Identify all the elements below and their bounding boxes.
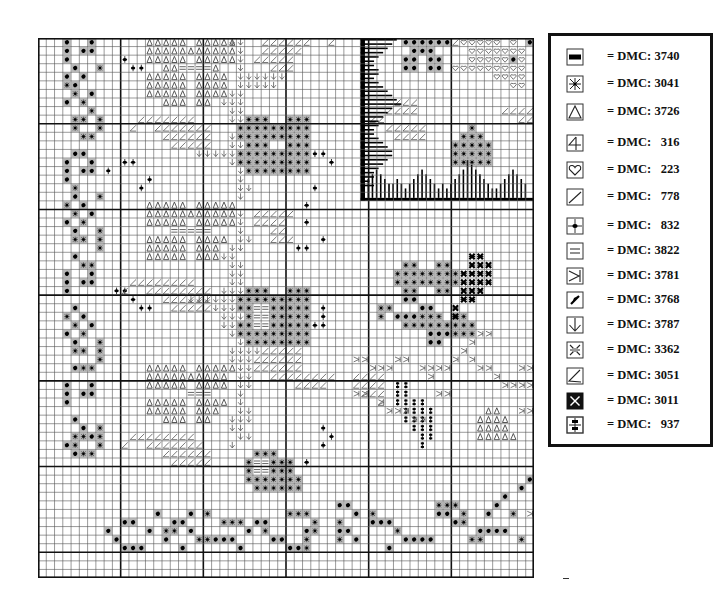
legend-item-3822: = DMC: 3822: [551, 240, 710, 262]
legend-item-316: = DMC: 316: [551, 132, 710, 154]
legend-code: = DMC: 3781: [607, 268, 679, 283]
legend-code: = DMC: 3787: [607, 317, 679, 332]
legend-code: = DMC: 223: [607, 162, 679, 177]
legend-item-3740: = DMC: 3740: [551, 46, 710, 68]
filled-diamond-icon: [566, 291, 584, 309]
legend-item-3011: = DMC: 3011: [551, 390, 710, 412]
stray-mark: [563, 578, 569, 579]
arrow-bar-icon: [566, 416, 584, 434]
legend-item-832: = DMC: 832: [551, 215, 710, 237]
legend-item-223: = DMC: 223: [551, 159, 710, 181]
legend-item-3041: = DMC: 3041: [551, 73, 710, 95]
solid-bar-icon: [566, 48, 584, 66]
four-icon: [566, 134, 584, 152]
legend-code: = DMC: 3362: [607, 342, 679, 357]
legend-code: = DMC: 316: [607, 135, 679, 150]
redirect-icon: [566, 267, 584, 285]
triangle-icon: [566, 103, 584, 121]
color-key-legend: = DMC: 3740 = DMC: 3041 = DMC: 3726 = DM…: [548, 33, 713, 447]
legend-item-3362: = DMC: 3362: [551, 339, 710, 361]
stitch-grid: [38, 38, 534, 578]
angle-icon: [566, 367, 584, 385]
legend-code: = DMC: 778: [607, 189, 679, 204]
legend-code: = DMC: 3822: [607, 243, 679, 258]
star-icon: [566, 75, 584, 93]
bold-x-icon: [566, 392, 584, 410]
legend-item-3726: = DMC: 3726: [551, 101, 710, 123]
legend-code: = DMC: 3726: [607, 104, 679, 119]
legend-item-778: = DMC: 778: [551, 186, 710, 208]
down-arrow-icon: [566, 316, 584, 334]
slash-icon: [566, 188, 584, 206]
legend-item-3051: = DMC: 3051: [551, 365, 710, 387]
double-bar-icon: [566, 242, 584, 260]
legend-item-3787: = DMC: 3787: [551, 314, 710, 336]
legend-item-3781: = DMC: 3781: [551, 265, 710, 287]
cross-stitch-chart: [38, 38, 534, 578]
legend-code: = DMC: 3011: [607, 393, 679, 408]
legend-item-937: = DMC: 937: [551, 414, 710, 436]
legend-code: = DMC: 832: [607, 218, 679, 233]
x-star-icon: [566, 341, 584, 359]
heart-icon: [566, 161, 584, 179]
legend-code: = DMC: 937: [607, 417, 679, 432]
legend-code: = DMC: 3768: [607, 292, 679, 307]
legend-code: = DMC: 3041: [607, 76, 679, 91]
legend-code: = DMC: 3740: [607, 49, 679, 64]
plus-dot-icon: [566, 217, 584, 235]
legend-item-3768: = DMC: 3768: [551, 289, 710, 311]
legend-code: = DMC: 3051: [607, 368, 679, 383]
